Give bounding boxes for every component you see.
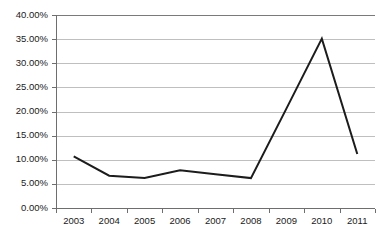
x-axis-tick-label: 2004	[99, 215, 120, 226]
x-axis-tick-label: 2009	[276, 215, 297, 226]
y-axis-tick-label: 0.00%	[21, 202, 48, 213]
x-axis-tick-label: 2010	[311, 215, 332, 226]
chart-canvas: 0.00%5.00%10.00%15.00%20.00%25.00%30.00%…	[0, 0, 383, 239]
y-axis-tick-label: 35.00%	[16, 33, 49, 44]
x-axis-tick-label: 2011	[347, 215, 367, 226]
y-axis-tick-label: 5.00%	[21, 177, 48, 188]
x-axis-tick-label: 2008	[240, 215, 261, 226]
y-axis-tick-label: 30.00%	[16, 57, 49, 68]
line-chart: 0.00%5.00%10.00%15.00%20.00%25.00%30.00%…	[0, 0, 383, 239]
x-axis-tick-label: 2006	[169, 215, 190, 226]
y-axis-tick-label: 10.00%	[16, 153, 49, 164]
y-axis-tick-labels-group: 0.00%5.00%10.00%15.00%20.00%25.00%30.00%…	[16, 9, 49, 213]
y-axis-tick-label: 40.00%	[16, 9, 49, 20]
y-axis-tick-label: 20.00%	[16, 105, 49, 116]
chart-background	[0, 0, 383, 239]
x-axis-tick-labels-group: 200320042005200620072008200920102011	[63, 215, 367, 226]
y-axis-tick-label: 15.00%	[16, 129, 49, 140]
x-axis-tick-label: 2003	[63, 215, 84, 226]
x-axis-tick-label: 2005	[134, 215, 155, 226]
y-axis-tick-label: 25.00%	[16, 81, 49, 92]
x-axis-tick-label: 2007	[205, 215, 226, 226]
